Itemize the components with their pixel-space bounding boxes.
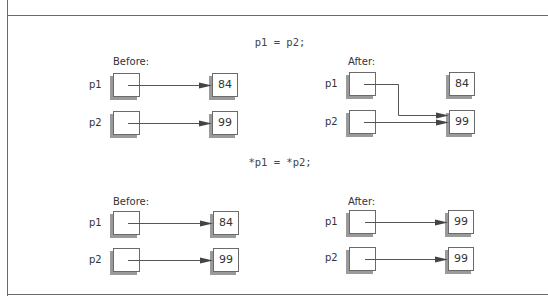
- pointer-label-p1: p1: [89, 217, 102, 229]
- pointer-label-p2: p2: [89, 117, 102, 129]
- arrowhead-icon: [436, 113, 449, 119]
- frame-top-rule: [7, 15, 548, 16]
- after-label: After:: [348, 196, 375, 208]
- pointer-box-p2: [349, 110, 376, 134]
- pointer-box-p2: [349, 247, 376, 271]
- frame-bottom-rule: [7, 294, 548, 295]
- value-box: 99: [448, 247, 474, 271]
- pointer-box-p1: [113, 73, 140, 97]
- arrowhead-icon: [200, 221, 213, 227]
- statement-code: p1 = p2;: [210, 36, 350, 49]
- pointer-label-p1: p1: [89, 79, 102, 91]
- value-box: 99: [213, 248, 239, 272]
- value-box: 99: [449, 110, 475, 134]
- arrowhead-icon: [436, 120, 449, 126]
- pointer-label-p1: p1: [325, 78, 338, 90]
- arrowhead-icon: [199, 121, 212, 127]
- pointer-box-p1: [349, 72, 376, 96]
- value-box: 84: [213, 211, 239, 235]
- value-box: 84: [449, 72, 475, 96]
- pointer-box-p2: [113, 111, 140, 135]
- arrowhead-icon: [435, 257, 448, 263]
- statement-code: *p1 = *p2;: [210, 156, 350, 169]
- arrowhead-icons: [199, 83, 449, 264]
- arrowhead-icon: [200, 258, 213, 264]
- pointer-box-p1: [349, 210, 376, 234]
- after-label: After:: [348, 56, 375, 68]
- value-box: 99: [448, 210, 474, 234]
- frame-left-border: [7, 0, 8, 296]
- pointer-label-p2: p2: [325, 116, 338, 128]
- pointer-box-p1: [113, 211, 140, 235]
- arrowhead-icon: [199, 83, 212, 89]
- pointer-label-p2: p2: [325, 252, 338, 264]
- pointer-box-p2: [113, 248, 140, 272]
- before-label: Before:: [113, 56, 149, 68]
- pointer-label-p1: p1: [325, 216, 338, 228]
- value-box: 99: [212, 111, 238, 135]
- arrowhead-icon: [435, 220, 448, 226]
- pointer-label-p2: p2: [89, 254, 102, 266]
- value-box: 84: [212, 73, 238, 97]
- before-label: Before:: [113, 196, 149, 208]
